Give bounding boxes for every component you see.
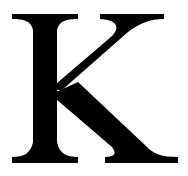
letter-k-shape (0, 0, 188, 176)
letter-k-glyph: K (0, 0, 188, 176)
